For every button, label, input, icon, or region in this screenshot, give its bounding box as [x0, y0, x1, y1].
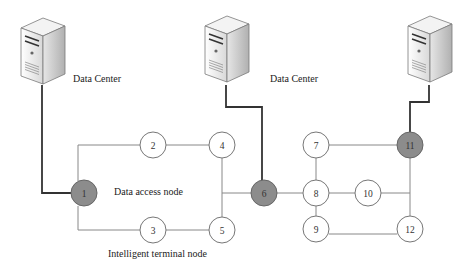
link-server-left-node-1 [42, 85, 71, 193]
svg-text:7: 7 [314, 141, 319, 151]
server-icon-middle [205, 16, 249, 82]
node-7: 7 [303, 132, 329, 158]
link-server-right-node-11 [410, 85, 429, 132]
svg-text:9: 9 [314, 225, 319, 235]
server-icon-right [408, 16, 452, 82]
node-5: 5 [209, 217, 235, 243]
node-6: 6 [251, 180, 277, 206]
svg-text:11: 11 [405, 141, 414, 151]
node-2: 2 [140, 132, 166, 158]
server-icon-left [21, 18, 65, 84]
data-center-middle-label: Data Center [270, 73, 318, 84]
node-8: 8 [303, 180, 329, 206]
svg-text:8: 8 [314, 189, 319, 199]
svg-text:6: 6 [262, 189, 267, 199]
intelligent-terminal-node-label: Intelligent terminal node [108, 248, 207, 259]
svg-text:3: 3 [151, 226, 156, 236]
node-10: 10 [355, 180, 381, 206]
svg-text:5: 5 [220, 226, 225, 236]
svg-text:1: 1 [82, 189, 87, 199]
data-center-left-label: Data Center [73, 73, 121, 84]
node-1: 1 [71, 180, 97, 206]
svg-text:4: 4 [220, 141, 225, 151]
server-links [42, 85, 429, 193]
network-diagram: 1 2 3 4 5 6 7 8 9 10 11 12 [0, 0, 473, 269]
link-server-middle-node-6 [226, 85, 262, 180]
node-11: 11 [397, 132, 423, 158]
node-9: 9 [303, 216, 329, 242]
svg-text:10: 10 [363, 189, 373, 199]
node-3: 3 [140, 217, 166, 243]
node-12: 12 [397, 216, 423, 242]
svg-text:12: 12 [405, 225, 415, 235]
svg-text:2: 2 [151, 141, 156, 151]
data-access-node-label: Data access node [114, 186, 183, 197]
node-4: 4 [209, 132, 235, 158]
